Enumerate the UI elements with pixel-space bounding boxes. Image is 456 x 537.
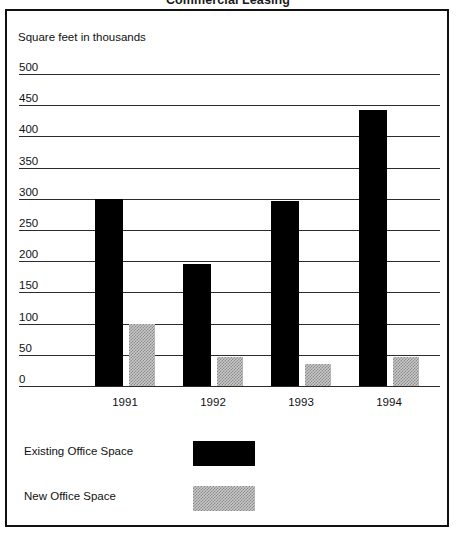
legend-row-existing: Existing Office Space <box>7 441 451 467</box>
x-tick-label-1991: 1991 <box>100 396 150 408</box>
bar-1991-existing <box>95 199 123 386</box>
x-axis-line <box>19 386 440 387</box>
bar-1992-existing <box>183 264 211 386</box>
chart-frame: Square feet in thousands 500450400350300… <box>5 9 449 527</box>
bar-1994-existing <box>359 110 387 386</box>
legend-swatch-existing <box>193 441 255 466</box>
x-tick-label-1994: 1994 <box>364 396 414 408</box>
bar-1991-new <box>129 324 155 386</box>
bar-1994-new <box>393 357 419 386</box>
bar-1993-new <box>305 364 331 386</box>
x-tick-label-1992: 1992 <box>188 396 238 408</box>
bar-1993-existing <box>271 201 299 386</box>
bar-1992-new <box>217 357 243 386</box>
x-tick-label-1993: 1993 <box>276 396 326 408</box>
legend-swatch-new <box>193 486 255 511</box>
legend-row-new: New Office Space <box>7 486 451 512</box>
legend-label: Existing Office Space <box>24 445 133 457</box>
chart-title: Commercial Leasing <box>0 0 456 7</box>
legend-label: New Office Space <box>24 490 116 502</box>
